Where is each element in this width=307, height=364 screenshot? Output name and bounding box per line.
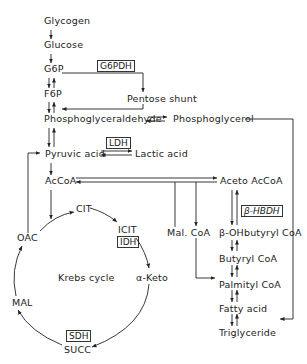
node-glucose: Glucose	[44, 39, 83, 50]
krebs-cycle-title: Krebs cycle	[58, 272, 115, 283]
enzyme-ldh: LDH	[106, 137, 131, 149]
enzyme-sdh: SDH	[66, 330, 91, 342]
node-beta-ohbutyryl-coa: β-OHbutyryl CoA	[219, 227, 302, 238]
node-oac: OAC	[17, 232, 38, 243]
node-accoa: AcCoA	[45, 175, 77, 186]
node-mal: MAL	[12, 297, 33, 308]
node-pentose-shunt: Pentose shunt	[127, 93, 197, 104]
node-f6p: F6P	[44, 88, 62, 99]
node-phosphoglycerol: Phosphoglycerol	[173, 113, 254, 124]
node-icit: ICIT	[118, 224, 137, 235]
node-pyruvic-acid: Pyruvic acid	[45, 148, 105, 159]
enzyme-beta-hbdh: β-HBDH	[241, 205, 283, 217]
node-triglyceride: Triglyceride	[219, 327, 276, 338]
node-g6p: G6P	[44, 63, 64, 74]
node-lactic-acid: Lactic acid	[135, 148, 188, 159]
node-alpha-keto: α-Keto	[136, 272, 168, 283]
node-mal-coa: Mal. CoA	[167, 227, 210, 238]
node-butyryl-coa: Butyryl CoA	[219, 253, 277, 264]
node-cit: CIT	[76, 203, 92, 214]
enzyme-g6pdh: G6PDH	[97, 60, 135, 72]
node-succ: SUCC	[64, 344, 91, 355]
node-fatty-acid: Fatty acid	[219, 303, 267, 314]
node-glycogen: Glycogen	[44, 15, 90, 26]
node-palmityl-coa: Palmityl CoA	[219, 279, 281, 290]
node-aceto-accoa: Aceto AcCoA	[220, 175, 283, 186]
node-phosphoglyceraldehyde: Phosphoglyceraldehyde	[44, 113, 162, 124]
enzyme-idh: IDH	[117, 236, 139, 248]
